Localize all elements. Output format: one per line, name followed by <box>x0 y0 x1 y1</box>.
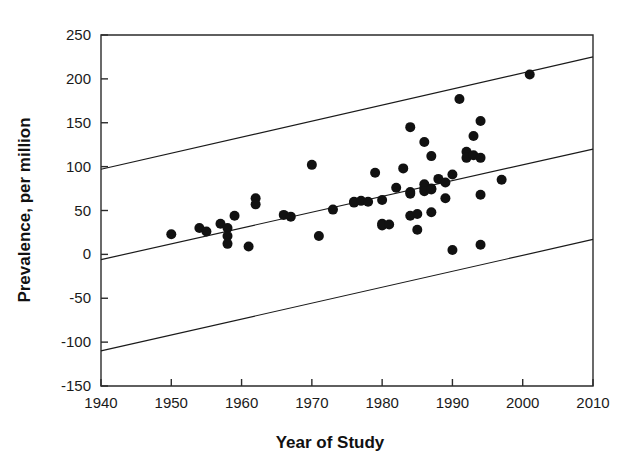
y-tick-label: 250 <box>66 26 91 43</box>
data-point <box>476 190 486 200</box>
x-tick-label: 1990 <box>436 394 469 411</box>
data-point <box>251 199 261 209</box>
axes <box>101 35 593 386</box>
y-tick-label: 0 <box>83 245 91 262</box>
data-point <box>447 245 457 255</box>
x-tick-label: 2010 <box>576 394 609 411</box>
data-point <box>426 151 436 161</box>
data-point <box>166 229 176 239</box>
data-point <box>440 193 450 203</box>
data-point <box>370 168 380 178</box>
data-point <box>447 170 457 180</box>
data-point <box>469 131 479 141</box>
x-tick-label: 1940 <box>84 394 117 411</box>
data-point <box>426 184 436 194</box>
x-tick-label: 2000 <box>506 394 539 411</box>
data-point <box>476 153 486 163</box>
data-points <box>166 69 534 255</box>
y-tick-label: 200 <box>66 70 91 87</box>
data-point <box>230 211 240 221</box>
x-axis-title: Year of Study <box>276 433 385 452</box>
data-point <box>419 137 429 147</box>
y-tick-label: 100 <box>66 158 91 175</box>
y-tick-label: 50 <box>74 202 91 219</box>
data-point <box>412 225 422 235</box>
fit-lines <box>101 57 593 351</box>
data-point <box>328 205 338 215</box>
plot-canvas: 19401950196019701980199020002010 -150-10… <box>0 0 634 466</box>
y-axis-title: Prevalence, per million <box>15 117 34 302</box>
upper-confidence-band <box>101 57 593 169</box>
data-point <box>426 207 436 217</box>
data-point <box>476 116 486 126</box>
data-point <box>405 122 415 132</box>
data-point <box>405 189 415 199</box>
data-point <box>286 212 296 222</box>
x-tick-labels: 19401950196019701980199020002010 <box>84 394 609 411</box>
regression-line <box>101 149 593 260</box>
y-tick-label: -50 <box>69 289 91 306</box>
data-point <box>476 240 486 250</box>
x-tick-label: 1960 <box>225 394 258 411</box>
tick-marks <box>101 35 593 386</box>
scatter-plot-figure: 19401950196019701980199020002010 -150-10… <box>0 0 634 466</box>
data-point <box>384 220 394 230</box>
data-point <box>223 239 233 249</box>
data-point <box>314 231 324 241</box>
x-tick-label: 1970 <box>295 394 328 411</box>
plot-frame <box>101 35 593 386</box>
data-point <box>440 177 450 187</box>
data-point <box>525 69 535 79</box>
data-point <box>363 197 373 207</box>
y-tick-label: -100 <box>61 333 91 350</box>
data-point <box>391 183 401 193</box>
x-tick-label: 1950 <box>155 394 188 411</box>
data-point <box>244 241 254 251</box>
x-tick-label: 1980 <box>365 394 398 411</box>
data-point <box>398 163 408 173</box>
data-point <box>377 195 387 205</box>
y-tick-label: -150 <box>61 377 91 394</box>
data-point <box>201 227 211 237</box>
data-point <box>454 94 464 104</box>
data-point <box>307 160 317 170</box>
lower-confidence-band <box>101 239 593 350</box>
data-point <box>412 209 422 219</box>
data-point <box>497 175 507 185</box>
y-tick-label: 150 <box>66 114 91 131</box>
y-tick-labels: -150-100-50050100150200250 <box>61 26 91 394</box>
